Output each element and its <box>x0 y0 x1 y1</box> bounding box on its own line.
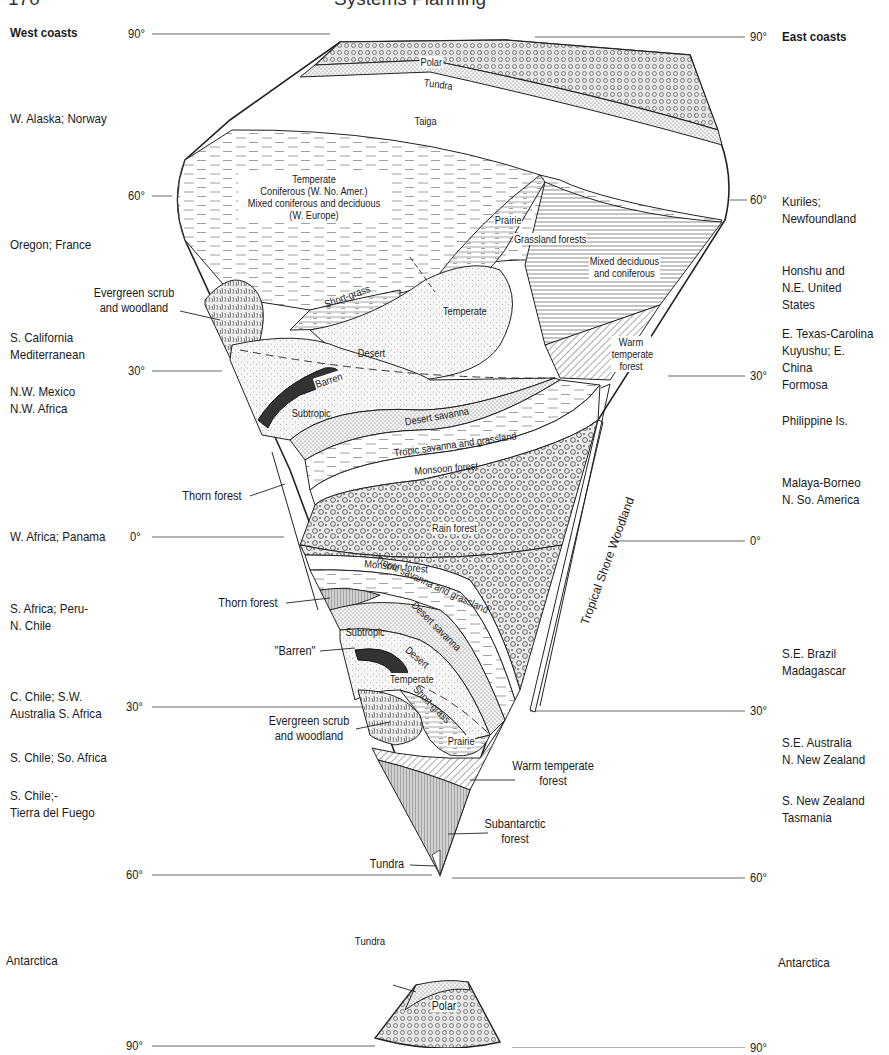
west-region: S. California Mediterranean <box>10 329 85 363</box>
zone-polar: Polar <box>420 56 443 68</box>
east-region: Philippine Is. <box>782 412 848 429</box>
lat-right-30s: 30° <box>750 703 767 718</box>
east-region: E. Texas-Carolina Kuyushu; E. China Form… <box>782 325 874 393</box>
east-region: S.E. Brazil Madagascar <box>782 645 846 679</box>
zone-antarctica-polar: Polar <box>431 1000 457 1012</box>
west-region: S. Chile;- Tierra del Fuego <box>10 787 95 821</box>
west-region: W. Alaska; Norway <box>10 110 107 127</box>
west-region: S. Chile; So. Africa <box>10 749 107 766</box>
west-region: N.W. Mexico N.W. Africa <box>10 383 75 417</box>
zone-south-subtropic: Subtropic <box>346 626 385 638</box>
callout-warm-temperate-forest: Warm temperate forest <box>508 759 598 789</box>
lat-right-60n: 60° <box>750 192 767 207</box>
zone-taiga: Taiga <box>415 115 437 127</box>
zone-mixed-deciduous: Mixed deciduous and coniferous <box>589 255 660 279</box>
east-region: Antarctica <box>778 954 830 971</box>
zone-desert: Desert <box>358 347 385 359</box>
lat-left-90n: 90° <box>128 26 145 41</box>
west-region: Oregon; France <box>10 236 91 253</box>
lat-left-60s: 60° <box>126 867 143 882</box>
west-region: Antarctica <box>6 952 58 969</box>
callout-thorn-forest-south: Thorn forest <box>215 596 282 611</box>
lat-right-90s: 90° <box>750 1040 767 1055</box>
callout-barren-south: "Barren" <box>273 644 317 659</box>
callout-tundra-south: Tundra <box>365 857 409 872</box>
lat-left-60n: 60° <box>128 188 145 203</box>
lat-right-0: 0° <box>750 533 761 548</box>
lat-right-90n: 90° <box>750 29 767 44</box>
zone-south-prairie: Prairie <box>447 735 475 747</box>
zone-rain-forest: Rain forest <box>431 522 477 534</box>
zone-south-temperate: Temperate <box>389 673 434 685</box>
zone-subtropic: Subtropic <box>292 407 331 419</box>
east-region: Honshu and N.E. United States <box>782 262 874 313</box>
callout-evergreen-scrub-south: Evergreen scrub and woodland <box>268 714 351 744</box>
callout-thorn-forest-north: Thorn forest <box>179 489 246 504</box>
east-region: Malaya-Borneo N. So. America <box>782 474 861 508</box>
lat-right-30n: 30° <box>750 368 767 383</box>
lat-left-30n: 30° <box>128 363 145 378</box>
west-region: C. Chile; S.W. Australia S. Africa <box>10 688 102 722</box>
callout-tundra-antarctica: Tundra <box>348 934 392 949</box>
east-region: S.E. Australia N. New Zealand <box>782 734 865 768</box>
west-region: W. Africa; Panama <box>10 528 106 545</box>
zone-grassland-forests: Grassland forests <box>513 233 587 245</box>
east-region: S. New Zealand Tasmania <box>782 792 865 826</box>
zone-warm-temperate-forest: Warm temperate forest <box>611 336 651 372</box>
callout-subantarctic-forest: Subantarctic forest <box>480 817 550 847</box>
west-region: S. Africa; Peru- N. Chile <box>10 600 88 634</box>
lat-left-90s: 90° <box>126 1038 143 1053</box>
lat-left-0: 0° <box>130 529 141 544</box>
east-region: Kuriles; Newfoundland <box>782 193 856 227</box>
lat-right-60s: 60° <box>750 870 767 885</box>
lat-left-30s: 30° <box>126 699 143 714</box>
zone-temperate-coniferous: Temperate Coniferous (W. No. Amer.) Mixe… <box>238 173 389 221</box>
callout-evergreen-scrub-north: Evergreen scrub and woodland <box>94 286 175 316</box>
zone-temperate-desert: Temperate <box>443 305 487 317</box>
zone-prairie: Prairie <box>494 214 522 226</box>
